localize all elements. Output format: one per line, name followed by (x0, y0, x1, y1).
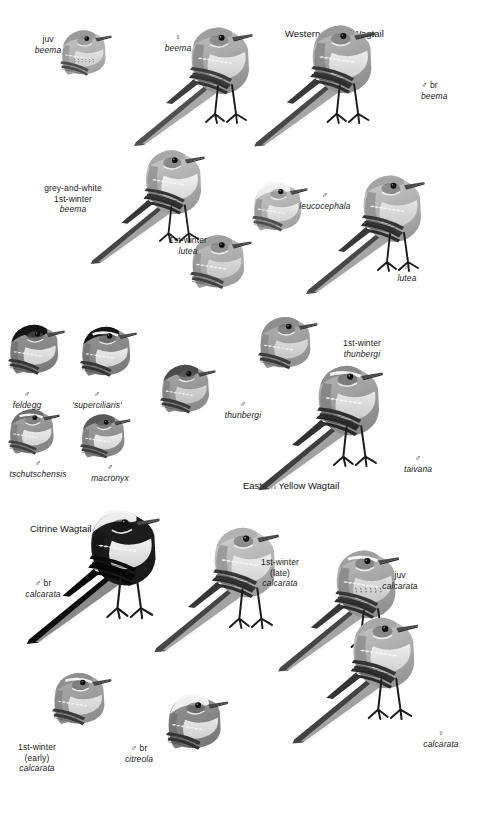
caption-line: 1st-winter (13, 194, 133, 205)
bird-male-tschutschensis (8, 405, 80, 461)
bird-plate: Western Yellow WagtailEastern Yellow Wag… (0, 0, 484, 815)
caption-line: lutea (128, 246, 248, 257)
bird-1st-winter-early-calcarata (52, 668, 135, 732)
caption-line: ♂ (50, 462, 170, 473)
caption-line: ♂ br (0, 578, 103, 589)
caption-line: beema (118, 43, 238, 54)
caption-male-br-beema: ♂ brbeema (421, 80, 448, 101)
bird-male-taivana (252, 360, 410, 497)
caption-line: taivana (358, 464, 478, 475)
caption-line: ♂ (265, 190, 385, 201)
caption-line: citreola (79, 754, 199, 765)
caption-1st-winter-thunbergi: 1st-winterthunbergi (302, 338, 422, 359)
caption-male-macronyx: ♂macronyx (50, 462, 170, 483)
caption-line: calcarata (340, 581, 460, 592)
caption-line: leucocephala (265, 201, 385, 212)
caption-male-br-calcarata: ♂ brcalcarata (0, 578, 103, 599)
bird-male-superciliaris (80, 322, 159, 384)
caption-line: 'superciliaris' (37, 400, 157, 411)
caption-line: beema (421, 91, 448, 102)
caption-line: juv (0, 34, 108, 45)
caption-male-lutea: ♂lutea (347, 262, 467, 283)
caption-line: calcarata (220, 578, 340, 589)
caption-line: macronyx (50, 473, 170, 484)
caption-line: juv (340, 570, 460, 581)
caption-line: ♂ br (79, 743, 199, 754)
caption-juv-beema: juvbeema (0, 34, 108, 55)
caption-line: 1st-winter (220, 557, 340, 568)
caption-line: thunbergi (183, 410, 303, 421)
bird-male-macronyx (80, 410, 150, 465)
caption-male-br-citreola: ♂ brcitreola (79, 743, 199, 764)
caption-male-taivana: ♂taivana (358, 453, 478, 474)
caption-line: ♀ (381, 728, 484, 739)
caption-line: grey-and-white (13, 183, 133, 194)
caption-line: beema (13, 204, 133, 215)
caption-line: calcarata (381, 739, 484, 750)
caption-line: ♀ (118, 32, 238, 43)
caption-grey-and-white-1st-winter-beema: grey-and-white1st-winterbeema (13, 183, 133, 215)
caption-line: beema (0, 45, 108, 56)
bird-male-br-beema (248, 20, 401, 153)
caption-male-thunbergi: ♂thunbergi (183, 399, 303, 420)
caption-1st-winter-lutea: 1st-winterlutea (128, 235, 248, 256)
caption-line: ♂ br (421, 80, 448, 91)
caption-line: (late) (220, 568, 340, 579)
caption-line: calcarata (0, 589, 103, 600)
bird-male-feldegg (8, 320, 87, 382)
caption-female-calcarata: ♀calcarata (381, 728, 484, 749)
caption-line: ♂ (183, 399, 303, 410)
caption-line: lutea (347, 273, 467, 284)
caption-line: ♂ (358, 453, 478, 464)
caption-male-leucocephala: ♂leucocephala (265, 190, 385, 211)
caption-juv-calcarata: juvcalcarata (340, 570, 460, 591)
caption-female-beema: ♀beema (118, 32, 238, 53)
caption-male-superciliaris: ♂'superciliaris' (37, 389, 157, 410)
caption-line: calcarata (0, 763, 97, 774)
caption-line: ♂ (37, 389, 157, 400)
caption-line: 1st-winter (128, 235, 248, 246)
caption-1st-winter-late-calcarata: 1st-winter(late)calcarata (220, 557, 340, 589)
caption-line: thunbergi (302, 349, 422, 360)
caption-line: 1st-winter (302, 338, 422, 349)
caption-line: ♂ (347, 262, 467, 273)
